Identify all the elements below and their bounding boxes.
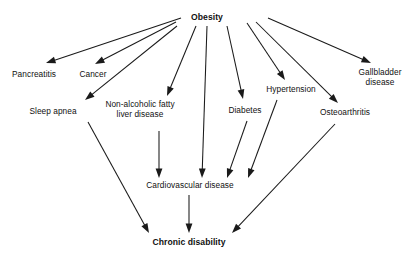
node-chronic: Chronic disability (151, 238, 226, 248)
diagram-canvas: ObesityPancreatitisCancerGallbladder dis… (0, 0, 412, 264)
edge-line (227, 26, 241, 92)
edge-arrow (186, 195, 193, 233)
node-sleep_apnea: Sleep apnea (28, 107, 77, 117)
arrowhead-icon (141, 223, 149, 233)
arrowhead-icon (227, 168, 233, 178)
diagram-edges (0, 0, 412, 264)
arrowhead-icon (156, 169, 163, 179)
edge-line (88, 122, 145, 226)
node-pancreatitis: Pancreatitis (11, 70, 57, 80)
node-diabetes: Diabetes (227, 106, 262, 116)
edge-arrow (46, 18, 181, 63)
edge-arrow (232, 124, 335, 233)
edge-line (53, 18, 181, 61)
edge-line (247, 23, 281, 74)
edge-arrow (227, 121, 247, 178)
node-cvd: Cardiovascular disease (145, 181, 234, 191)
node-obesity: Obesity (190, 13, 224, 23)
arrowhead-icon (186, 224, 193, 234)
node-nafld: Non-alcoholic fatty liver disease (104, 100, 175, 119)
edge-line (268, 18, 364, 60)
arrowhead-icon (167, 86, 174, 96)
edge-arrow (227, 26, 244, 99)
node-gallbladder: Gallbladder disease (358, 68, 403, 87)
node-cancer: Cancer (78, 70, 107, 80)
arrowhead-icon (46, 57, 56, 63)
edge-line (202, 26, 207, 171)
node-hypertension: Hypertension (265, 85, 317, 95)
edge-arrow (167, 26, 196, 96)
edge-arrow (156, 131, 163, 178)
arrowhead-icon (95, 57, 105, 64)
edge-line (170, 26, 196, 89)
node-osteoarthritis: Osteoarthritis (319, 108, 371, 118)
edge-line (237, 124, 335, 228)
arrowhead-icon (199, 168, 206, 178)
edge-arrow (268, 18, 371, 63)
edge-line (229, 121, 247, 171)
edge-arrow (88, 122, 149, 233)
arrowhead-icon (248, 168, 254, 178)
arrowhead-icon (277, 70, 285, 80)
edge-arrow (199, 26, 207, 178)
arrowhead-icon (85, 91, 95, 100)
arrowhead-icon (238, 89, 245, 99)
arrowhead-icon (361, 56, 371, 63)
